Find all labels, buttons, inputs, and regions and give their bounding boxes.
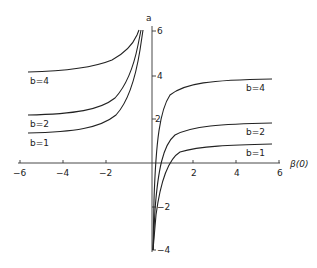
curve-right-b1 — [153, 144, 272, 250]
x-axis-label: β(0) — [289, 159, 309, 169]
curve-label-right-b1: b=1 — [246, 148, 265, 158]
x-tick-label: −4 — [56, 168, 70, 178]
curve-right-b2 — [153, 123, 272, 250]
x-tick-label: −2 — [99, 168, 112, 178]
curve-label-right-b4: b=4 — [246, 83, 265, 93]
x-tick-label: 4 — [234, 168, 240, 178]
curve-label-right-b2: b=2 — [246, 127, 265, 137]
y-tick-label: 6 — [157, 26, 163, 36]
curve-label-left-b4: b=4 — [30, 76, 49, 86]
axes — [18, 26, 280, 252]
curve-label-left-b2: b=2 — [30, 119, 49, 129]
y-tick-label: −4 — [157, 245, 171, 255]
y-tick-label: −2 — [157, 202, 170, 212]
x-tick-label: 6 — [277, 168, 283, 178]
curve-left-b4 — [28, 30, 139, 72]
y-axis-label: a — [146, 13, 152, 23]
y-tick-label: 4 — [157, 71, 163, 81]
chart: −6 −4 −2 2 4 6 6 4 2 −2 −4 a β(0) b=4 b=… — [0, 0, 317, 268]
curve-right-b4 — [153, 79, 272, 250]
x-tick-label: 2 — [191, 168, 197, 178]
curve-label-left-b1: b=1 — [30, 138, 49, 148]
curve-left-b2 — [28, 30, 141, 115]
x-tick-label: −6 — [13, 168, 27, 178]
